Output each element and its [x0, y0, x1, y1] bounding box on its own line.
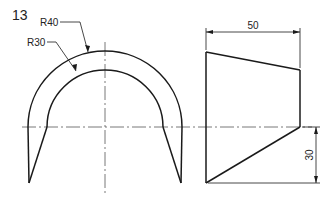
r30-label: R30 [27, 37, 46, 48]
figure-number: 13 [12, 7, 28, 23]
dimension-50 [206, 28, 300, 68]
technical-drawing: 13 R40 R30 50 [0, 0, 323, 200]
centerlines [22, 42, 312, 195]
height-dimension-label: 30 [304, 149, 315, 161]
side-top-edge [206, 52, 300, 70]
right-leg-outer [181, 127, 182, 183]
side-diagonal-edge [206, 127, 300, 183]
r40-label: R40 [40, 17, 59, 28]
left-leg-inner [29, 127, 47, 183]
dim30-arrow-bottom-icon [314, 176, 318, 183]
r30-leader [47, 42, 76, 71]
dim30-arrow-top-icon [314, 127, 318, 134]
dim50-arrow-left-icon [206, 30, 213, 34]
left-leg-outer [28, 127, 29, 183]
side-view [206, 52, 300, 183]
dim50-arrow-right-icon [293, 30, 300, 34]
r40-leader [60, 22, 88, 52]
width-dimension-label: 50 [247, 20, 259, 31]
right-leg-inner [163, 127, 181, 183]
r30-arrowhead-icon [72, 64, 77, 71]
radius-leaders [47, 22, 88, 71]
